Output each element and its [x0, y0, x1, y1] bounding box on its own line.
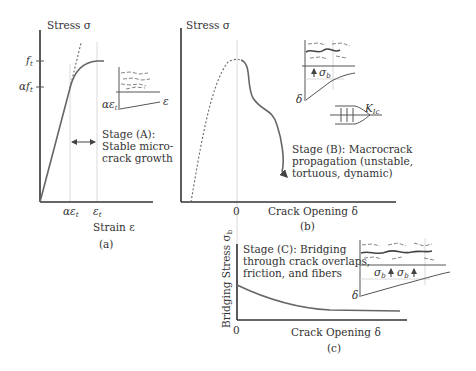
panel-a: Stress σ ft αft αεt εt Strain ε (a) αεt … — [19, 19, 174, 250]
svg-text:ε: ε — [163, 95, 169, 107]
inset-c-bridging: σb σb δ — [352, 238, 450, 301]
stage-b-line-2: propagation (unstable, — [292, 155, 413, 167]
stage-c-line-1: Stage (C): Bridging — [243, 243, 347, 255]
panel-b-y-label: Stress σ — [186, 19, 230, 31]
panel-a-x-label: Strain ε — [93, 221, 135, 233]
bridging-curve — [237, 285, 400, 311]
inset-b-macrocrack: σb δ — [296, 40, 355, 105]
stress-strain-curve — [40, 61, 104, 202]
panel-b-caption: (b) — [300, 220, 315, 232]
stage-b-line-3: tortuous, dynamic) — [292, 167, 393, 179]
panel-b-origin: 0 — [233, 205, 240, 217]
svg-text:δ: δ — [352, 289, 358, 301]
panel-c-caption: (c) — [327, 342, 341, 354]
panel-a-caption: (a) — [99, 238, 113, 250]
svg-text:αεt: αεt — [102, 98, 118, 112]
stage-c-line-3: friction, and fibers — [243, 267, 342, 279]
svg-text:σb: σb — [319, 66, 331, 80]
panel-b-x-label: Crack Opening δ — [268, 205, 358, 217]
panel-c-x-label: Crack Opening δ — [291, 326, 381, 338]
panel-c-y-label: Bridging Stress σb — [220, 229, 234, 328]
inset-a-microcracks: αεt ε — [102, 67, 169, 112]
panel-c: Bridging Stress σb 0 Crack Opening δ (c)… — [220, 229, 450, 354]
stage-c-line-2: through crack overlaps, — [243, 255, 370, 267]
tick-ft: ft — [25, 54, 33, 68]
svg-text:σb: σb — [374, 266, 386, 280]
stage-b-line-1: Stage (B): Macrocrack — [292, 143, 413, 155]
tick-eps-t: εt — [93, 205, 102, 219]
stage-a-line-3: crack growth — [102, 152, 173, 164]
svg-text:δ: δ — [296, 93, 302, 105]
panel-c-origin: 0 — [233, 324, 240, 336]
post-peak-curve — [241, 60, 283, 172]
kic-crack-tip-icon: KIc — [330, 102, 382, 124]
stage-a-line-1: Stage (A): — [102, 128, 155, 140]
tick-alpha-eps: αεt — [63, 205, 79, 219]
pre-peak-curve — [191, 59, 241, 202]
stage-a-line-2: Stable micro- — [102, 140, 174, 152]
tick-alpha-ft: αft — [19, 80, 33, 94]
svg-text:KIc: KIc — [364, 102, 380, 116]
panel-a-y-label: Stress σ — [47, 19, 91, 31]
svg-text:σb: σb — [397, 266, 409, 280]
